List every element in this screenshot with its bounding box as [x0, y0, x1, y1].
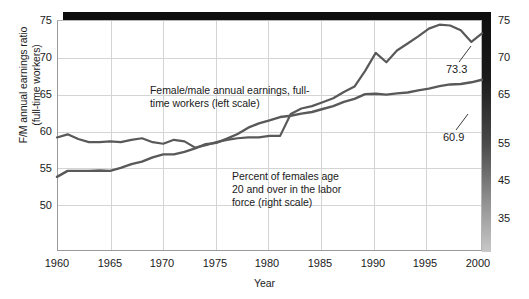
x-tick-1980: 1980	[244, 258, 290, 269]
y-tick-right-70: 70	[498, 52, 524, 63]
plot-shadow-right	[482, 12, 491, 252]
gridline-h-60	[58, 132, 481, 133]
x-axis-title: Year	[0, 277, 529, 289]
gridline-v-1995	[426, 21, 427, 250]
gridline-v-1965	[111, 21, 112, 250]
value-label-labor-2000: 60.9	[443, 132, 464, 143]
gridline-v-1975	[216, 21, 217, 250]
y-tick-right-35: 35	[498, 213, 524, 224]
gridline-v-1980	[268, 21, 269, 250]
value-label-earnings-2000: 73.3	[446, 64, 467, 75]
gridline-v-1970	[163, 21, 164, 250]
x-tick-1975: 1975	[192, 258, 238, 269]
x-tick-1960: 1960	[34, 258, 80, 269]
y-tick-left-75: 75	[26, 15, 52, 26]
y-tick-left-65: 65	[26, 89, 52, 100]
y-tick-right-55: 55	[498, 138, 524, 149]
x-tick-1985: 1985	[297, 258, 343, 269]
gridline-v-1985	[321, 21, 322, 250]
y-tick-left-60: 60	[26, 126, 52, 137]
x-tick-1965: 1965	[87, 258, 133, 269]
y-tick-left-50: 50	[26, 200, 52, 211]
y-tick-left-55: 55	[26, 163, 52, 174]
y-tick-right-45: 45	[498, 175, 524, 186]
x-tick-1995: 1995	[402, 258, 448, 269]
annotation-earnings-series: Female/male annual earnings, full-time w…	[150, 84, 310, 110]
y-tick-right-65: 65	[498, 89, 524, 100]
x-tick-1970: 1970	[139, 258, 185, 269]
y-tick-right-75: 75	[498, 15, 524, 26]
chart-figure: F/M annual earnings ratio (full-time wor…	[0, 0, 529, 299]
annotation-labor-series: Percent of females age 20 and over in th…	[232, 170, 352, 210]
y-tick-left-70: 70	[26, 52, 52, 63]
gridline-v-1990	[374, 21, 375, 250]
x-tick-1990: 1990	[350, 258, 396, 269]
x-tick-2000: 2000	[455, 258, 501, 269]
gridline-h-70	[58, 58, 481, 59]
plot-area	[57, 20, 482, 251]
